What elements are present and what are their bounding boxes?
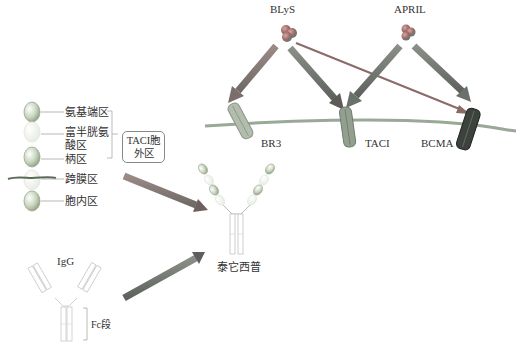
blys-label: BLyS xyxy=(270,3,295,16)
arrow-igg-to-product xyxy=(124,252,205,298)
arrow-april-to-taci xyxy=(346,46,400,108)
callout-line2: 外区 xyxy=(123,147,164,160)
domain-crd-label-line2: 酸区 xyxy=(65,139,87,152)
fc-label: Fc段 xyxy=(91,318,111,331)
br3-receptor-icon xyxy=(226,101,254,140)
arrow-taci-to-product xyxy=(124,176,208,212)
product-fusion-protein-icon xyxy=(197,162,277,254)
domain-stalk-label: 柄区 xyxy=(65,153,87,166)
domain-n-terminal-label: 氨基端区 xyxy=(65,106,109,119)
taci-receptor-icon xyxy=(339,106,356,147)
april-trimer-icon xyxy=(402,25,416,41)
blys-trimer-icon xyxy=(281,25,297,42)
callout-line1: TACI胞 xyxy=(123,134,164,147)
domain-transmembrane-label: 跨膜区 xyxy=(65,173,98,186)
arrow-blys-to-taci xyxy=(290,48,344,110)
domain-intracellular-label: 胞内区 xyxy=(65,195,98,208)
product-label: 泰它西普 xyxy=(217,261,261,274)
fc-bracket xyxy=(83,308,87,340)
taci-extracellular-callout: TACI胞 外区 xyxy=(122,131,165,163)
domain-crd-label-line1: 富半胱氨 xyxy=(65,126,109,139)
bcma-receptor-icon xyxy=(455,107,481,151)
br3-label: BR3 xyxy=(261,137,281,150)
taci-label: TACI xyxy=(365,137,390,150)
igg-label: IgG xyxy=(57,255,74,268)
taci-domain-stack xyxy=(8,102,56,211)
arrow-blys-to-br3 xyxy=(228,46,276,103)
leader-lines xyxy=(41,112,64,201)
april-label: APRIL xyxy=(394,3,426,16)
bcma-label: BCMA xyxy=(421,137,453,150)
